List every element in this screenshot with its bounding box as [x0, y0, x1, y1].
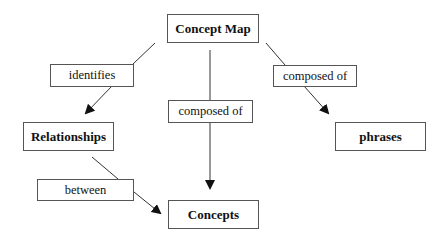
node-concept-map: Concept Map: [167, 14, 259, 43]
edge-conceptmap-to-composed-right: [266, 43, 285, 65]
node-phrases: phrases: [335, 122, 426, 151]
edge-conceptmap-to-identifies: [133, 43, 155, 64]
link-identifies-label: identifies: [69, 68, 116, 83]
link-composed-of-center-label: composed of: [178, 104, 242, 119]
edge-composed-right-to-phrases: [304, 86, 328, 113]
link-between: between: [37, 179, 134, 201]
node-relationships-label: Relationships: [31, 129, 106, 145]
node-concepts-label: Concepts: [188, 207, 239, 223]
node-concepts: Concepts: [168, 200, 259, 229]
link-composed-of-center: composed of: [168, 100, 253, 123]
link-between-label: between: [65, 183, 107, 198]
node-relationships: Relationships: [23, 122, 114, 151]
node-phrases-label: phrases: [359, 129, 402, 145]
link-composed-of-right: composed of: [273, 65, 357, 87]
link-composed-of-right-label: composed of: [283, 69, 347, 84]
node-concept-map-label: Concept Map: [175, 21, 250, 37]
link-identifies: identifies: [50, 64, 134, 87]
edge-relationships-to-between: [92, 157, 118, 179]
edge-between-to-concepts: [134, 192, 160, 213]
edge-identifies-to-relationships: [86, 86, 112, 113]
